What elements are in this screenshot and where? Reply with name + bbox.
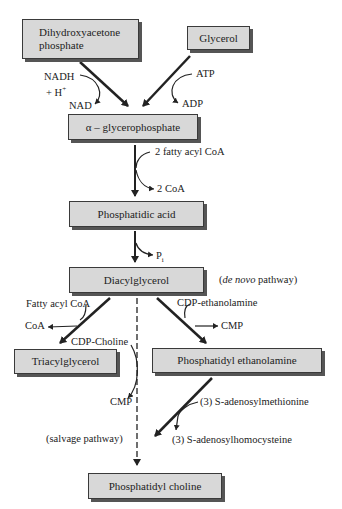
- label-pi-sub: i: [162, 256, 164, 264]
- box-dag-label: Diacylglycerol: [104, 274, 169, 287]
- label-cdp-choline: CDP-Choline: [71, 336, 128, 348]
- label-hplus-sup: +: [62, 85, 66, 93]
- label-nad: NAD: [69, 100, 92, 112]
- box-pc-label: Phosphatidyl choline: [109, 480, 202, 493]
- label-de-novo-pathway: (de novo pathway): [219, 274, 297, 286]
- box-dhap-line1: Dihydroxyacetone: [39, 26, 120, 39]
- label-2-fatty-acyl-coa: 2 fatty acyl CoA: [155, 146, 225, 158]
- box-glycerol-label: Glycerol: [199, 32, 237, 45]
- label-fatty-acyl-coa: Fatty acyl CoA: [26, 298, 90, 310]
- box-phosphatidic-acid: Phosphatidic acid: [69, 201, 204, 227]
- label-hplus-text: + H: [46, 87, 62, 98]
- label-cdp-ethanolamine: CDP-ethanolamine: [177, 297, 257, 309]
- box-dihydroxyacetone-phosphate: Dihydroxyacetone phosphate: [22, 19, 139, 59]
- label-de-novo-italic: de novo: [223, 274, 256, 285]
- label-2-coa: 2 CoA: [157, 183, 185, 195]
- box-phosphatidyl-choline: Phosphatidyl choline: [88, 473, 222, 499]
- label-sah: (3) S-adenosylhomocysteine: [172, 434, 292, 446]
- label-de-novo-rest: pathway): [255, 274, 297, 285]
- box-alpha-glycerophosphate: α – glycerophosphate: [68, 114, 198, 140]
- label-salvage-pathway: (salvage pathway): [46, 433, 123, 445]
- box-glycerol: Glycerol: [187, 26, 250, 50]
- box-pa-label: Phosphatidic acid: [98, 208, 176, 221]
- label-adp: ADP: [182, 98, 203, 110]
- label-hplus: + H+: [46, 83, 66, 99]
- label-nadh: NADH: [44, 71, 74, 83]
- label-sam: (3) S-adenosylmethionine: [200, 396, 309, 408]
- label-pi: Pi: [156, 250, 164, 266]
- box-agp-label: α – glycerophosphate: [86, 121, 180, 134]
- box-pe-label: Phosphatidyl ethanolamine: [177, 354, 296, 367]
- label-coa: CoA: [25, 320, 45, 332]
- box-diacylglycerol: Diacylglycerol: [69, 267, 204, 293]
- box-dhap-line2: phosphate: [39, 39, 120, 52]
- box-phosphatidyl-ethanolamine: Phosphatidyl ethanolamine: [152, 348, 322, 373]
- label-atp: ATP: [196, 68, 215, 80]
- box-tag-label: Triacylglycerol: [32, 355, 99, 368]
- label-cmp-right: CMP: [221, 320, 243, 332]
- box-triacylglycerol: Triacylglycerol: [14, 349, 117, 374]
- label-cmp-left: CMP: [110, 396, 132, 408]
